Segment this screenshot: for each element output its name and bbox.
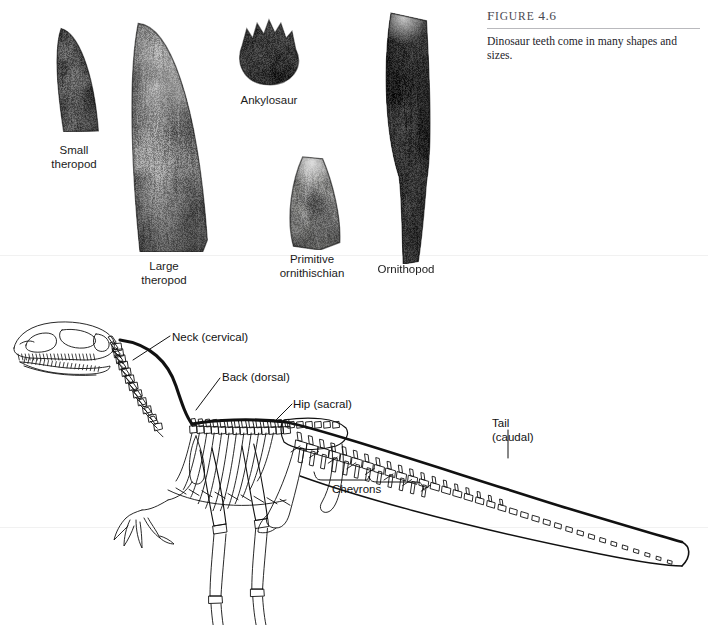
tooth-ankylosaur-photo <box>232 18 306 86</box>
figure-caption-text: Dinosaur teeth come in many shapes and s… <box>487 35 700 63</box>
label-line-1: Large <box>141 260 186 274</box>
caption-rule <box>487 28 700 29</box>
figure-page: FIGURE 4.6 Dinosaur teeth come in many s… <box>0 0 708 625</box>
tooth-primitive-ornithischian-label: Primitive ornithischian <box>280 253 345 280</box>
tooth-ankylosaur: Ankylosaur <box>232 18 306 128</box>
tooth-primitive-ornithischian-photo <box>279 155 345 250</box>
annotation-hip: Hip (sacral) <box>293 398 352 412</box>
annotation-back: Back (dorsal) <box>222 371 290 385</box>
tooth-ornithopod: Ornithopod <box>372 8 440 278</box>
tooth-ornithopod-photo <box>372 8 440 264</box>
annotation-tail: Tail (caudal) <box>492 417 534 444</box>
tooth-ankylosaur-label: Ankylosaur <box>241 94 298 108</box>
label-line-1: Ornithopod <box>378 263 435 277</box>
tooth-large-theropod: Large theropod <box>118 14 210 284</box>
teeth-photo-group: Small theropod Large theropod Ankylosaur <box>0 0 480 256</box>
tooth-small-theropod: Small theropod <box>42 22 106 172</box>
label-line-2: theropod <box>51 158 96 172</box>
tooth-large-theropod-label: Large theropod <box>141 260 186 287</box>
label-line-1: Small <box>51 144 96 158</box>
label-line-2: theropod <box>141 274 186 288</box>
figure-number-text: FIGURE 4.6 <box>487 10 556 22</box>
figure-number: FIGURE 4.6 <box>487 8 700 24</box>
annotation-neck: Neck (cervical) <box>172 331 248 345</box>
tooth-primitive-ornithischian: Primitive ornithischian <box>279 155 345 265</box>
label-line-1: Primitive <box>280 253 345 267</box>
annotation-chevrons: Chevrons <box>332 483 381 497</box>
label-line-1: Ankylosaur <box>241 94 298 108</box>
skeleton-drawing <box>0 300 708 625</box>
tooth-small-theropod-label: Small theropod <box>51 144 96 171</box>
figure-caption-block: FIGURE 4.6 Dinosaur teeth come in many s… <box>487 8 700 63</box>
tooth-large-theropod-photo <box>118 14 210 252</box>
tooth-small-theropod-photo <box>42 22 106 132</box>
tooth-ornithopod-label: Ornithopod <box>378 263 435 277</box>
label-line-2: ornithischian <box>280 267 345 281</box>
skeleton-diagram: Neck (cervical) Back (dorsal) Hip (sacra… <box>0 300 708 625</box>
